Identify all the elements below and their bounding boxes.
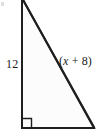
figure-canvas: 12 (x + 8) bbox=[0, 0, 97, 134]
hypotenuse-label: (x + 8) bbox=[59, 55, 92, 67]
hypotenuse-plus-operator: + bbox=[69, 54, 82, 68]
hypotenuse-close-paren: ) bbox=[88, 54, 92, 68]
vertical-leg-label: 12 bbox=[6, 58, 18, 70]
